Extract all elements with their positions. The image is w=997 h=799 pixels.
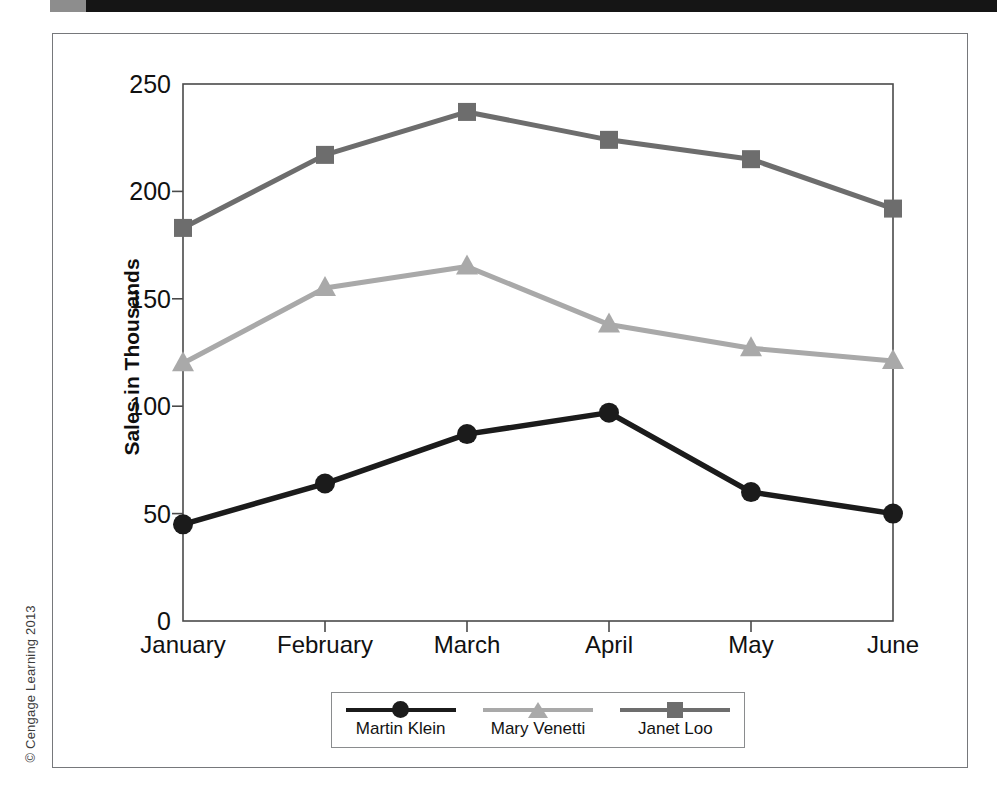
legend-marker-circle-icon bbox=[392, 701, 409, 718]
legend-marker-triangle-icon bbox=[528, 702, 548, 718]
legend-label: Mary Venetti bbox=[491, 719, 586, 739]
legend-label: Janet Loo bbox=[638, 719, 713, 739]
legend-swatch bbox=[483, 702, 593, 718]
copyright-credit: © Cengage Learning 2013 bbox=[23, 583, 38, 763]
legend-entry: Mary Venetti bbox=[479, 702, 597, 739]
page-edge-bar-fade bbox=[50, 0, 86, 12]
legend-marker-square-icon bbox=[667, 702, 683, 718]
legend-entry: Janet Loo bbox=[616, 702, 734, 739]
figure-frame bbox=[52, 33, 968, 768]
legend-swatch bbox=[346, 702, 456, 718]
page-edge-bar bbox=[50, 0, 997, 12]
legend-entry: Martin Klein bbox=[342, 702, 460, 739]
legend-label: Martin Klein bbox=[356, 719, 446, 739]
chart-legend: Martin KleinMary VenettiJanet Loo bbox=[331, 692, 745, 748]
legend-swatch bbox=[620, 702, 730, 718]
